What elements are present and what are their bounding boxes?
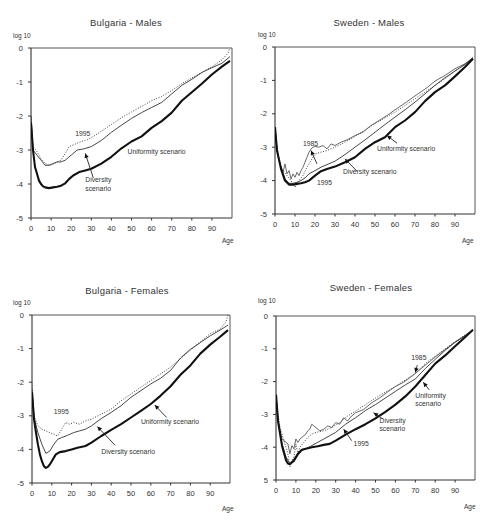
- svg-text:70: 70: [411, 220, 419, 229]
- svg-text:70: 70: [411, 486, 419, 495]
- plot-area: 0-1-2-3-4-501020304050607080901995Unifor…: [0, 260, 246, 523]
- y-axis-label: log 10: [13, 32, 31, 39]
- annotation-arrow: [387, 136, 397, 144]
- chart-title: Bulgaria - Males: [90, 17, 162, 28]
- svg-text:50: 50: [371, 220, 379, 229]
- svg-text:-3: -3: [260, 143, 267, 152]
- svg-text:60: 60: [391, 220, 399, 229]
- svg-text:30: 30: [332, 486, 340, 495]
- svg-text:0: 0: [263, 43, 267, 52]
- x-axis-label: Age: [222, 237, 234, 244]
- svg-text:10: 10: [47, 224, 55, 233]
- svg-text:50: 50: [127, 489, 135, 498]
- series-1985: [275, 58, 473, 179]
- svg-text:20: 20: [312, 486, 320, 495]
- plot-area: 0-1-2-3-4501020304050607080901985Uniform…: [246, 260, 492, 523]
- svg-text:10: 10: [291, 220, 299, 229]
- annotation-label: Uniformity scenario: [141, 418, 199, 426]
- svg-text:50: 50: [371, 486, 379, 495]
- svg-text:0: 0: [29, 224, 33, 233]
- svg-text:20: 20: [311, 220, 319, 229]
- svg-text:30: 30: [87, 224, 95, 233]
- x-axis-label: Age: [462, 237, 474, 244]
- annotation-label: Diversity: [85, 176, 112, 184]
- y-axis-ticks: 0-1-2-3-4-5: [17, 311, 32, 488]
- svg-text:10: 10: [292, 486, 300, 495]
- chart-sweden-males: Sweden - Males log 10 Age 0-1-2-3-4-5010…: [246, 0, 492, 260]
- svg-text:-3: -3: [17, 411, 24, 420]
- svg-text:0: 0: [19, 44, 23, 53]
- y-axis-ticks: 0-1-2-3-4-5: [16, 44, 31, 223]
- svg-text:-2: -2: [17, 378, 24, 387]
- annotation-arrow: [155, 405, 167, 417]
- svg-text:-5: -5: [17, 479, 24, 488]
- series-uniformity-scenario: [32, 325, 228, 453]
- y-axis-ticks: 0-1-2-3-4-5: [260, 43, 275, 219]
- chart-bulgaria-males: Bulgaria - Males log 10 Age 0-1-2-3-4-50…: [0, 0, 246, 260]
- axes-frame: [32, 315, 230, 483]
- axes-frame: [31, 48, 232, 218]
- svg-text:-2: -2: [260, 109, 267, 118]
- annotation-label: scenario: [379, 425, 405, 432]
- x-axis-ticks: 0102030405060708090: [274, 480, 459, 495]
- axes-frame: [275, 47, 475, 214]
- annotation-label: 1995: [54, 408, 69, 415]
- annotation-label: 1985: [303, 140, 318, 147]
- chart-title: Bulgaria - Females: [85, 285, 168, 296]
- chart-title: Sweden - Males: [334, 17, 405, 28]
- annotation-label: Diversity scenario: [101, 448, 155, 456]
- svg-text:-2: -2: [261, 377, 268, 386]
- svg-text:-4: -4: [260, 176, 267, 185]
- annotation-label: 1995: [75, 130, 90, 137]
- svg-text:0: 0: [273, 220, 277, 229]
- annotation-arrow: [85, 153, 94, 177]
- x-axis-ticks: 0102030405060708090: [30, 483, 214, 498]
- svg-text:10: 10: [48, 489, 56, 498]
- y-axis-ticks: 0-1-2-3-45: [261, 312, 276, 485]
- series-diversity-scenario: [275, 59, 473, 185]
- chart-title: Sweden - Females: [330, 282, 412, 293]
- svg-text:20: 20: [67, 224, 75, 233]
- svg-text:40: 40: [107, 489, 115, 498]
- svg-text:-4: -4: [261, 443, 268, 452]
- annotation-label: Uniformity scenario: [127, 148, 185, 156]
- svg-text:60: 60: [147, 489, 155, 498]
- annotation-arrow: [423, 382, 429, 390]
- y-axis-label: log 10: [258, 31, 276, 38]
- svg-text:60: 60: [391, 486, 399, 495]
- svg-text:-4: -4: [16, 180, 23, 189]
- chart-bulgaria-females: Bulgaria - Females log 10 Age 0-1-2-3-4-…: [0, 260, 246, 523]
- svg-text:-4: -4: [17, 445, 24, 454]
- svg-text:-1: -1: [16, 78, 23, 87]
- svg-text:0: 0: [30, 489, 34, 498]
- svg-text:-5: -5: [260, 210, 267, 219]
- svg-text:0: 0: [274, 486, 278, 495]
- x-axis-ticks: 0102030405060708090: [273, 214, 459, 229]
- annotation-label: Uniformity: [415, 392, 446, 400]
- svg-text:40: 40: [351, 486, 359, 495]
- svg-text:90: 90: [451, 486, 459, 495]
- svg-text:40: 40: [107, 224, 115, 233]
- svg-text:30: 30: [87, 489, 95, 498]
- annotation-label: 1995: [354, 440, 369, 447]
- svg-text:70: 70: [166, 489, 174, 498]
- svg-text:70: 70: [168, 224, 176, 233]
- svg-text:40: 40: [351, 220, 359, 229]
- svg-text:90: 90: [206, 489, 214, 498]
- svg-text:-1: -1: [17, 344, 24, 353]
- svg-text:-1: -1: [261, 344, 268, 353]
- annotation-arrow: [311, 151, 317, 164]
- svg-text:5: 5: [264, 476, 268, 485]
- series-diversity-scenario: [31, 61, 230, 188]
- x-axis-label: Age: [222, 505, 234, 512]
- plot-area: 0-1-2-3-4-501020304050607080901995Unifor…: [0, 0, 246, 260]
- svg-text:80: 80: [188, 224, 196, 233]
- x-axis-ticks: 0102030405060708090: [29, 218, 216, 233]
- svg-text:90: 90: [208, 224, 216, 233]
- annotation-label: Diversity: [379, 417, 406, 425]
- annotation-label: scenario: [415, 400, 441, 407]
- annotation-label: 1995: [317, 179, 332, 186]
- chart-sweden-females: Sweden - Females log 10 Age 0-1-2-3-4501…: [246, 260, 492, 523]
- annotation-label: Diversity scenario: [343, 168, 397, 176]
- annotation-label: Uniformity scenario: [377, 145, 435, 153]
